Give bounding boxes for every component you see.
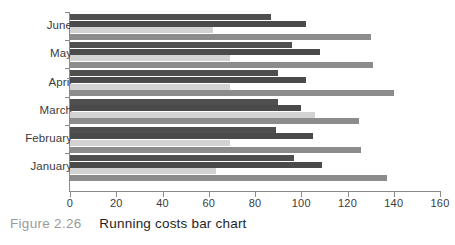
bar-may-series-2 — [70, 49, 320, 55]
bar-group-june — [70, 14, 440, 40]
y-axis-category-label-april: April — [48, 76, 72, 88]
bar-group-april — [70, 70, 440, 96]
bar-march-series-4 — [70, 118, 359, 124]
bar-march-series-2 — [70, 105, 301, 111]
bar-april-series-1 — [70, 70, 278, 76]
bar-june-series-4 — [70, 34, 371, 40]
y-axis-category-label-june: June — [47, 19, 72, 31]
x-axis-tick-label: 140 — [374, 197, 414, 209]
y-axis-category-label-january: January — [30, 160, 72, 172]
bar-group-january — [70, 155, 440, 181]
x-axis-tick-label: 0 — [50, 197, 90, 209]
bar-february-series-3 — [70, 140, 230, 146]
x-axis-tick-label: 160 — [420, 197, 455, 209]
bar-march-series-3 — [70, 112, 315, 118]
figure-caption: Figure 2.26 Running costs bar chart — [10, 216, 450, 231]
x-axis-tick-label: 40 — [143, 197, 183, 209]
bar-group-march — [70, 99, 440, 125]
bar-june-series-2 — [70, 21, 306, 27]
bar-group-may — [70, 42, 440, 68]
x-axis-tick-label: 80 — [235, 197, 275, 209]
y-axis-category-label-march: March — [40, 104, 72, 116]
y-axis-category-label-february: February — [25, 132, 72, 144]
bar-june-series-3 — [70, 27, 213, 33]
bar-may-series-3 — [70, 55, 230, 61]
bar-april-series-3 — [70, 84, 230, 90]
x-axis-tick-label: 100 — [281, 197, 321, 209]
bar-february-series-1 — [70, 127, 276, 133]
bar-january-series-2 — [70, 162, 322, 168]
bar-february-series-2 — [70, 133, 313, 139]
bar-group-february — [70, 127, 440, 153]
x-axis-tick-label: 120 — [328, 197, 368, 209]
bar-march-series-1 — [70, 99, 278, 105]
bar-january-series-3 — [70, 168, 216, 174]
bar-may-series-4 — [70, 62, 373, 68]
figure-container: 020406080100120140160 JuneMayAprilMarchF… — [0, 0, 455, 245]
x-axis-tick-label: 60 — [189, 197, 229, 209]
y-axis-tick — [65, 12, 70, 13]
bar-april-series-2 — [70, 77, 306, 83]
y-axis-category-label-may: May — [50, 47, 72, 59]
bar-january-series-1 — [70, 155, 294, 161]
bar-chart-plot-area: 020406080100120140160 JuneMayAprilMarchF… — [0, 0, 455, 200]
figure-caption-label: Figure 2.26 — [10, 216, 82, 231]
bar-april-series-4 — [70, 90, 394, 96]
x-axis-tick-label: 20 — [96, 197, 136, 209]
bar-june-series-1 — [70, 14, 271, 20]
bar-may-series-1 — [70, 42, 292, 48]
bar-february-series-4 — [70, 147, 361, 153]
figure-caption-text: Running costs bar chart — [99, 216, 246, 231]
bar-january-series-4 — [70, 175, 387, 181]
